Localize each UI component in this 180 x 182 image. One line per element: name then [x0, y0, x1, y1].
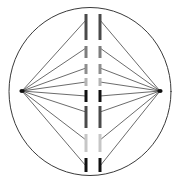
cell-diagram-canvas — [0, 0, 180, 182]
mitosis-diagram — [0, 0, 180, 182]
right-spindle-pole — [157, 89, 162, 93]
left-spindle-pole — [19, 89, 24, 93]
diagram-background — [0, 0, 180, 182]
